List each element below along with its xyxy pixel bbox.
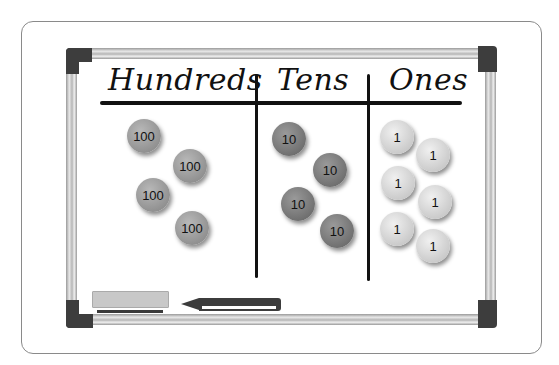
- coin-label: 100: [133, 129, 155, 144]
- coin-label: 10: [291, 197, 305, 212]
- coin-label: 10: [323, 163, 337, 178]
- coin-1: 1: [380, 120, 414, 154]
- frame-corner-tr: [478, 46, 497, 72]
- coin-10: 10: [281, 187, 315, 221]
- eraser-icon: [92, 291, 169, 308]
- coin-label: 1: [394, 176, 401, 191]
- coin-label: 1: [431, 195, 438, 210]
- coin-10: 10: [320, 214, 354, 248]
- frame-right: [485, 60, 496, 318]
- coin-label: 100: [181, 221, 203, 236]
- coin-1: 1: [380, 212, 414, 246]
- coin-100: 100: [127, 119, 161, 153]
- coin-label: 10: [330, 224, 344, 239]
- coin-label: 10: [282, 132, 296, 147]
- coin-1: 1: [416, 229, 450, 263]
- coin-100: 100: [136, 178, 170, 212]
- coin-label: 1: [429, 239, 436, 254]
- header-underline: [100, 101, 462, 105]
- coin-100: 100: [175, 211, 209, 245]
- frame-corner-bl-h: [66, 314, 93, 328]
- divider-hundreds-tens: [255, 74, 258, 278]
- marker-tip-icon: [181, 298, 199, 310]
- frame-bottom: [72, 314, 486, 325]
- coin-label: 100: [179, 159, 201, 174]
- marker-icon: [199, 298, 281, 311]
- coin-label: 100: [142, 188, 164, 203]
- coin-100: 100: [173, 149, 207, 183]
- frame-left: [66, 60, 77, 318]
- frame-corner-tl-v: [66, 48, 79, 74]
- frame-corner-br: [478, 300, 497, 328]
- frame-top: [72, 48, 486, 59]
- heading-tens: Tens: [277, 62, 349, 97]
- heading-hundreds: Hundreds: [108, 62, 263, 97]
- coin-label: 1: [429, 148, 436, 163]
- marker-stripe: [202, 306, 276, 309]
- coin-label: 1: [393, 130, 400, 145]
- eraser-base: [97, 310, 163, 313]
- divider-tens-ones: [367, 74, 370, 281]
- coin-10: 10: [272, 122, 306, 156]
- coin-10: 10: [313, 153, 347, 187]
- coin-1: 1: [416, 138, 450, 172]
- coin-1: 1: [381, 166, 415, 200]
- coin-1: 1: [418, 185, 452, 219]
- heading-ones: Ones: [389, 62, 468, 97]
- coin-label: 1: [393, 222, 400, 237]
